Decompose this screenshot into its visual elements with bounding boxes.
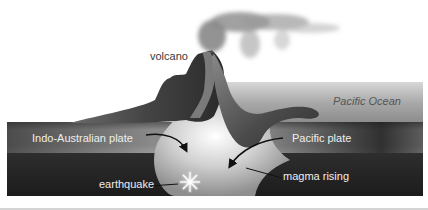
- label-pacific-ocean: Pacific Ocean: [333, 96, 401, 107]
- label-indo-australian-plate: Indo-Australian plate: [32, 133, 133, 144]
- smoke-plume: [198, 12, 340, 58]
- label-magma-rising: magma rising: [283, 171, 349, 182]
- label-earthquake: earthquake: [99, 179, 154, 190]
- label-volcano: volcano: [150, 51, 188, 62]
- bottom-divider: [0, 208, 428, 210]
- label-pacific-plate: Pacific plate: [292, 133, 351, 144]
